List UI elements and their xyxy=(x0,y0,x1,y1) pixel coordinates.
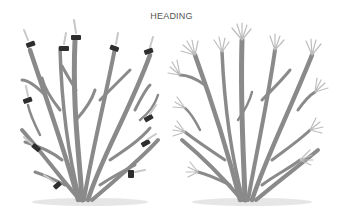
shrub-before xyxy=(22,20,158,206)
stem-left xyxy=(30,50,78,200)
shrub-after xyxy=(168,23,328,206)
shrub-illustration xyxy=(0,0,343,224)
